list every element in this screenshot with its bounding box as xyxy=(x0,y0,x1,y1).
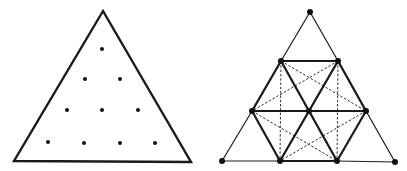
right-triangle-hexagon-graph xyxy=(219,9,398,165)
dot xyxy=(118,77,122,81)
thick-edge xyxy=(338,61,366,111)
vertex-dot xyxy=(335,58,341,64)
thin-edge xyxy=(366,111,395,162)
dot xyxy=(136,108,140,112)
thick-edge xyxy=(337,111,366,161)
dot xyxy=(118,141,122,145)
thin-edge xyxy=(222,111,252,161)
dot xyxy=(65,108,69,112)
thin-edge xyxy=(281,12,310,61)
thick-edge xyxy=(252,61,281,111)
vertex-dot xyxy=(277,158,283,164)
vertex-dot xyxy=(249,108,255,114)
dot xyxy=(100,47,104,51)
dot xyxy=(153,141,157,145)
vertex-dot xyxy=(334,158,340,164)
triangle-outline xyxy=(14,11,191,162)
vertex-dot xyxy=(219,158,225,164)
thick-edge xyxy=(252,111,280,161)
vertex-dot xyxy=(307,9,313,15)
left-triangle-with-dots xyxy=(14,11,191,162)
dot xyxy=(82,141,86,145)
vertex-dot xyxy=(306,108,312,114)
dot xyxy=(100,108,104,112)
vertex-dot xyxy=(392,159,398,165)
thin-edge xyxy=(337,161,395,162)
vertex-dot xyxy=(278,58,284,64)
dot xyxy=(46,140,50,144)
thin-edge xyxy=(310,12,338,61)
dot xyxy=(83,77,87,81)
triangle-diagram xyxy=(0,0,407,171)
vertex-dot xyxy=(363,108,369,114)
